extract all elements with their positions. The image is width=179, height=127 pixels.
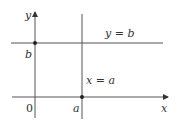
point-0-b xyxy=(33,41,37,45)
origin-label: 0 xyxy=(26,102,33,115)
y-axis-label: y xyxy=(24,9,32,22)
coordinate-diagram: y x 0 a b y = b x = a xyxy=(0,0,179,127)
x-axis-label: x xyxy=(161,102,168,115)
horizontal-line-label: y = b xyxy=(104,27,134,40)
vertical-line-label: x = a xyxy=(86,74,115,87)
a-tick-label: a xyxy=(73,102,80,115)
b-tick-label: b xyxy=(25,48,32,61)
point-a-0 xyxy=(80,95,84,99)
